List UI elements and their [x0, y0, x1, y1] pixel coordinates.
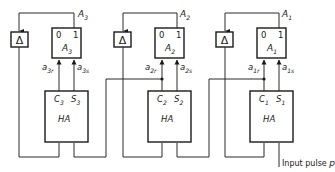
ff-name-A2: A2 [165, 44, 175, 55]
ff-state0-A2: 0 [159, 31, 164, 40]
ff-state1-A2: 1 [176, 31, 181, 40]
input-label-a3s: a3s [77, 63, 89, 74]
input-label-a1s: a1s [282, 63, 294, 74]
junction-dot-1 [262, 77, 265, 80]
input-pulse-symbol: p [329, 158, 335, 168]
delta-icon-1: Δ [221, 34, 229, 47]
ha-label-1: HA [263, 115, 275, 124]
ha-label-2: HA [161, 115, 173, 124]
input-label-a1r: a1r [248, 63, 260, 74]
input-pulse-label: Input pulse p [282, 159, 335, 168]
ff-name-A3: A3 [62, 44, 72, 55]
ha-carry-C2: C2 [157, 95, 167, 106]
input-label-a2s: a2s [180, 63, 192, 74]
ha-sum-S2: S2 [174, 95, 183, 106]
delta-icon-2: Δ [119, 34, 127, 47]
carry-branch-2 [106, 79, 162, 86]
ha-sum-S3: S3 [71, 95, 80, 106]
input-label-a2r: a2r [145, 63, 157, 74]
ha-carry-C1: C1 [259, 95, 269, 106]
output-label-A2: A2 [180, 10, 190, 21]
delta-icon-3: Δ [16, 34, 24, 47]
ff-state1-A1: 1 [278, 31, 283, 40]
ha-label-3: HA [58, 115, 70, 124]
ha-sum-S1: S1 [276, 95, 285, 106]
ha-carry-C3: C3 [54, 95, 64, 106]
ff-state1-A3: 1 [73, 31, 78, 40]
output-label-A1: A1 [282, 10, 292, 21]
ff-name-A1: A1 [267, 44, 277, 55]
ff-state0-A3: 0 [56, 31, 61, 40]
output-label-A3: A3 [78, 10, 88, 21]
junction-dot-2 [160, 77, 163, 80]
input-label-a3r: a3r [42, 63, 54, 74]
ff-state0-A1: 0 [261, 31, 266, 40]
